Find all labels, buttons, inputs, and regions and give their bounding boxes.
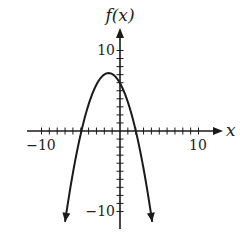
right-end-arrow-icon	[147, 212, 155, 221]
y-axis-arrow-icon	[116, 28, 124, 38]
left-end-arrow-icon	[62, 212, 70, 221]
y-tick-label-neg10: −10	[85, 203, 115, 219]
parabola-curve	[65, 73, 152, 222]
y-tick-label-10: 10	[97, 42, 115, 58]
function-graph: f(x) x −10 10 10 −10	[0, 0, 240, 235]
x-axis-label: x	[226, 120, 236, 140]
axes	[27, 28, 223, 229]
x-tick-label-10: 10	[189, 137, 207, 153]
y-axis-label: f(x)	[103, 5, 134, 25]
x-tick-label-neg10: −10	[26, 137, 56, 153]
x-axis-arrow-icon	[213, 127, 223, 135]
